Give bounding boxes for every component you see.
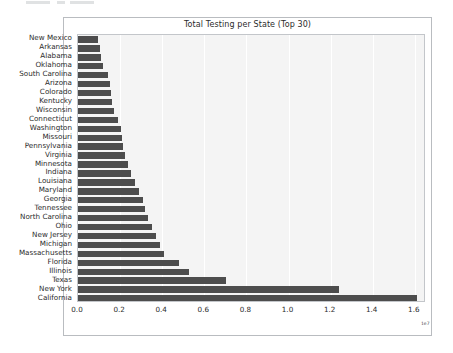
bar-texas [78, 277, 226, 283]
y-tick-label-california: California [38, 294, 72, 302]
y-tick-label-connecticut: Connecticut [29, 115, 72, 123]
x-tick-label-1-0: 1.0 [282, 305, 293, 314]
bar-louisiana [78, 179, 135, 185]
y-tick-label-texas: Texas [52, 276, 72, 284]
bar-georgia [78, 197, 143, 203]
y-tick-label-new-mexico: New Mexico [29, 34, 72, 42]
clipped-strip-segment-3 [70, 1, 94, 4]
y-tick-label-tennessee: Tennessee [35, 204, 72, 212]
y-tick-label-georgia: Georgia [44, 195, 72, 203]
bar-arizona [78, 81, 110, 87]
y-tick-label-kentucky: Kentucky [39, 97, 72, 105]
bar-south-carolina [78, 72, 108, 78]
bar-illinois [78, 269, 189, 275]
y-tick-label-michigan: Michigan [40, 240, 72, 248]
bar-missouri [78, 135, 122, 141]
clipped-strip-segment-1 [26, 1, 50, 4]
y-tick-label-new-york: New York [39, 285, 72, 293]
bar-maryland [78, 188, 139, 194]
clipped-top-strip [26, 0, 96, 5]
y-tick-label-maryland: Maryland [39, 186, 72, 194]
y-tick-label-south-carolina: South Carolina [19, 70, 72, 78]
x-tick-label-0-2: 0.2 [113, 305, 124, 314]
x-tick-label-1-4: 1.4 [366, 305, 377, 314]
y-tick-label-arizona: Arizona [45, 79, 72, 87]
y-tick-label-illinois: Illinois [49, 267, 72, 275]
x-tick-label-0-6: 0.6 [198, 305, 209, 314]
bar-pennsylvania [78, 143, 123, 149]
y-tick-label-massachusetts: Massachusetts [19, 249, 72, 257]
bar-kentucky [78, 99, 112, 105]
bar-ohio [78, 224, 152, 230]
bar-arkansas [78, 45, 100, 51]
bar-new-jersey [78, 233, 156, 239]
y-tick-label-alabama: Alabama [40, 52, 72, 60]
bar-california [78, 295, 417, 301]
y-tick-label-louisiana: Louisiana [38, 177, 72, 185]
bar-florida [78, 260, 179, 266]
bar-massachusetts [78, 251, 164, 257]
x-tick-label-1-2: 1.2 [324, 305, 335, 314]
bar-series [78, 35, 424, 301]
y-tick-label-missouri: Missouri [42, 133, 72, 141]
y-tick-label-north-carolina: North Carolina [20, 213, 72, 221]
bar-indiana [78, 170, 131, 176]
plot-area [77, 34, 425, 302]
bar-michigan [78, 242, 160, 248]
y-tick-label-minnesota: Minnesota [35, 160, 72, 168]
bar-minnesota [78, 161, 128, 167]
bar-connecticut [78, 117, 118, 123]
y-axis-tick-labels: New MexicoArkansasAlabamaOklahomaSouth C… [0, 34, 75, 302]
y-tick-label-oklahoma: Oklahoma [35, 61, 72, 69]
y-tick-label-washington: Washington [30, 124, 72, 132]
bar-new-mexico [78, 36, 98, 42]
y-tick-label-virginia: Virginia [45, 151, 72, 159]
y-tick-label-florida: Florida [48, 258, 72, 266]
bar-virginia [78, 152, 125, 158]
x-axis-offset-label: 1e7 [421, 320, 430, 325]
y-tick-label-colorado: Colorado [40, 88, 72, 96]
bar-new-york [78, 286, 339, 292]
bar-colorado [78, 90, 111, 96]
chart-figure: Total Testing per State (Top 30) [63, 17, 432, 336]
y-tick-label-new-jersey: New Jersey [32, 231, 72, 239]
bar-washington [78, 126, 121, 132]
x-tick-label-0-0: 0.0 [71, 305, 82, 314]
x-tick-label-0-8: 0.8 [240, 305, 251, 314]
chart-title: Total Testing per State (Top 30) [64, 20, 431, 29]
y-tick-label-wisconsin: Wisconsin [36, 106, 72, 114]
y-tick-label-indiana: Indiana [45, 168, 72, 176]
y-tick-label-arkansas: Arkansas [39, 43, 72, 51]
bar-wisconsin [78, 108, 114, 114]
bar-north-carolina [78, 215, 148, 221]
bar-oklahoma [78, 63, 103, 69]
bar-alabama [78, 54, 101, 60]
y-tick-label-ohio: Ohio [55, 222, 72, 230]
bar-tennessee [78, 206, 145, 212]
x-tick-label-0-4: 0.4 [155, 305, 166, 314]
y-tick-label-pennsylvania: Pennsylvania [25, 142, 72, 150]
x-tick-label-1-6: 1.6 [408, 305, 419, 314]
clipped-strip-segment-2 [57, 1, 65, 4]
